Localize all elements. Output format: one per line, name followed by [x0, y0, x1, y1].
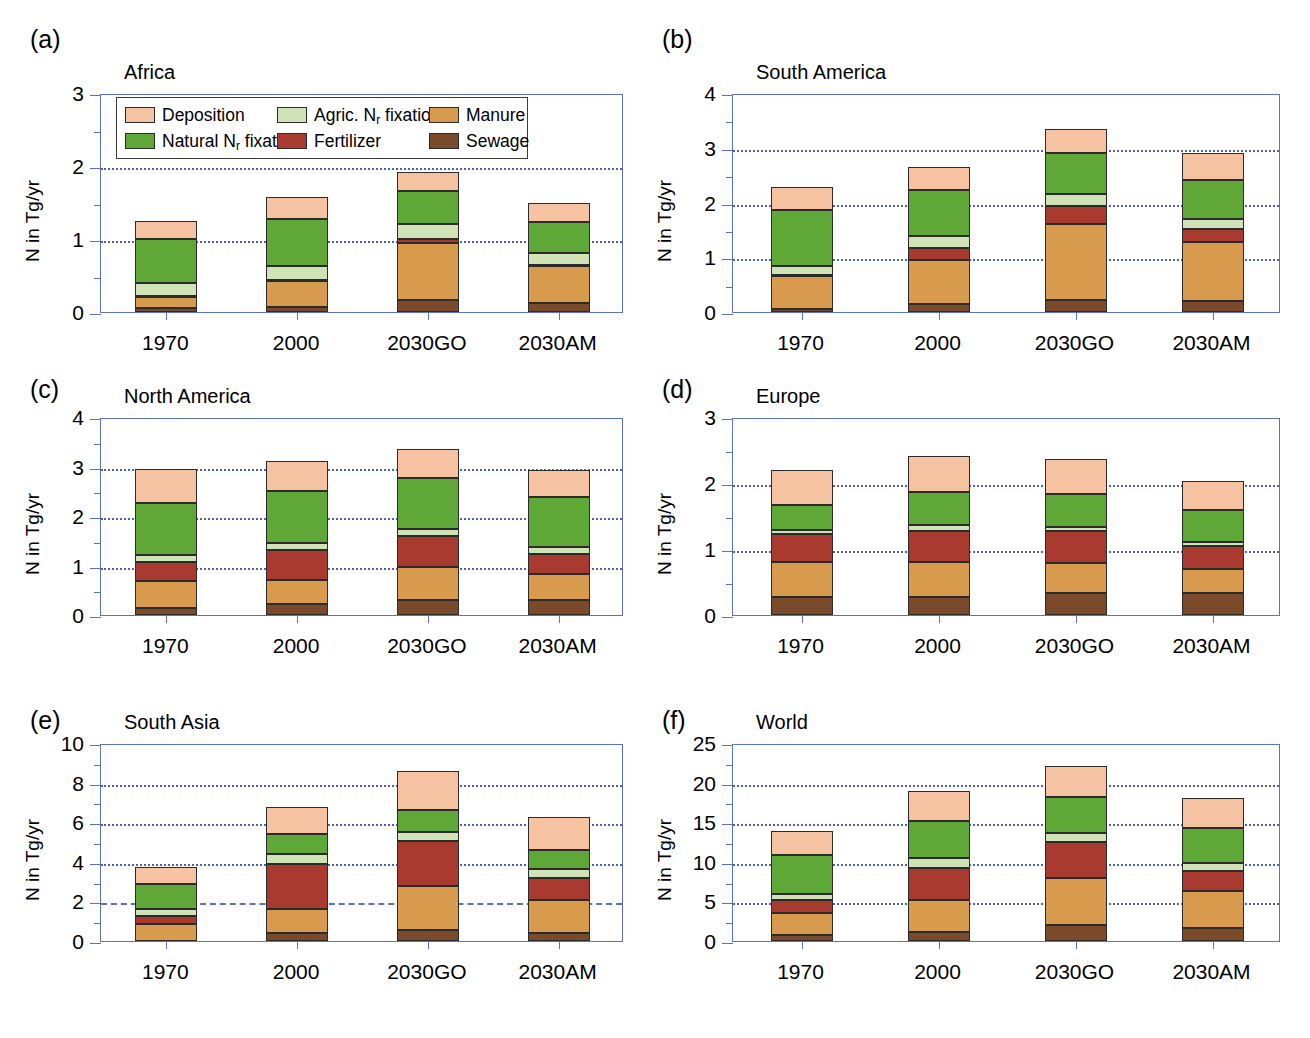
bar-segment-fertilizer[interactable] — [1182, 871, 1244, 891]
bar-segment-agric_fixation[interactable] — [771, 894, 833, 900]
y-tick-label: 0 — [674, 930, 716, 954]
x-tick-label: 2000 — [914, 960, 961, 984]
bar-segment-agric_fixation[interactable] — [1045, 833, 1107, 843]
bar-segment-manure[interactable] — [1182, 891, 1244, 928]
legend-label-agric_fixation: Agric. Nr fixation — [314, 105, 441, 126]
legend-swatch-agric_fixation — [277, 107, 307, 123]
figure-root: (a)AfricaN in Tg/yr0123197020002030GO203… — [0, 0, 1310, 1038]
bar-segment-agric_fixation[interactable] — [1182, 863, 1244, 871]
y-tick-minor — [726, 765, 733, 766]
y-tick-label: 5 — [674, 890, 716, 914]
x-tick — [1213, 941, 1214, 949]
legend-swatch-sewage — [429, 133, 459, 149]
bar-segment-sewage[interactable] — [771, 935, 833, 941]
panel-label-f: (f) — [662, 706, 686, 735]
y-tick-label: 25 — [674, 732, 716, 756]
legend-label-deposition: Deposition — [162, 105, 245, 126]
legend-item-fertilizer: Fertilizer — [277, 128, 429, 154]
y-tick-major — [722, 903, 733, 904]
bar-segment-sewage[interactable] — [1045, 925, 1107, 941]
y-tick-major — [722, 785, 733, 786]
panel-title-f: World — [756, 711, 808, 734]
bar-segment-agric_fixation[interactable] — [908, 858, 970, 868]
y-tick-major — [722, 943, 733, 944]
bar-segment-natural_fixation[interactable] — [1182, 828, 1244, 864]
legend-swatch-deposition — [125, 107, 155, 123]
x-tick — [939, 941, 940, 949]
x-tick-label: 2030AM — [1172, 960, 1250, 984]
legend-swatch-fertilizer — [277, 133, 307, 149]
gridline-20 — [733, 785, 1279, 787]
stacked-bar[interactable] — [771, 831, 833, 941]
x-tick — [1076, 941, 1077, 949]
bar-segment-natural_fixation[interactable] — [908, 821, 970, 858]
y-tick-minor — [726, 884, 733, 885]
y-tick-minor — [726, 923, 733, 924]
y-tick-label: 15 — [674, 811, 716, 835]
bar-segment-fertilizer[interactable] — [771, 900, 833, 913]
bar-segment-sewage[interactable] — [1182, 928, 1244, 941]
bar-segment-deposition[interactable] — [1182, 798, 1244, 827]
stacked-bar[interactable] — [1182, 798, 1244, 941]
legend-item-deposition: Deposition — [125, 102, 277, 128]
legend-item-natural_fixation: Natural Nr fixation — [125, 128, 277, 154]
bar-segment-sewage[interactable] — [908, 932, 970, 942]
legend-label-fertilizer: Fertilizer — [314, 131, 381, 152]
bar-segment-manure[interactable] — [908, 900, 970, 932]
legend-swatch-natural_fixation — [125, 133, 155, 149]
legend-label-sewage: Sewage — [466, 131, 529, 152]
y-tick-major — [722, 745, 733, 746]
plot-area-f — [732, 744, 1280, 942]
y-tick-major — [722, 864, 733, 865]
x-tick-label: 1970 — [777, 960, 824, 984]
bar-segment-natural_fixation[interactable] — [1045, 797, 1107, 833]
stacked-bar[interactable] — [1045, 766, 1107, 941]
legend-item-sewage: Sewage — [429, 128, 521, 154]
legend-label-manure: Manure — [466, 105, 525, 126]
bar-segment-natural_fixation[interactable] — [771, 855, 833, 894]
legend-swatch-manure — [429, 107, 459, 123]
bar-segment-manure[interactable] — [771, 913, 833, 935]
bar-segment-deposition[interactable] — [771, 831, 833, 856]
x-tick-label: 2030GO — [1035, 960, 1114, 984]
bar-segment-deposition[interactable] — [908, 791, 970, 821]
y-tick-major — [722, 824, 733, 825]
stacked-bar[interactable] — [908, 791, 970, 941]
legend-item-agric_fixation: Agric. Nr fixation — [277, 102, 429, 128]
y-tick-label: 20 — [674, 772, 716, 796]
chart-legend: DepositionAgric. Nr fixationManureNatura… — [116, 97, 528, 159]
y-axis-label-f: N in Tg/yr — [654, 819, 676, 901]
bar-segment-manure[interactable] — [1045, 878, 1107, 926]
bar-segment-fertilizer[interactable] — [908, 868, 970, 900]
legend-item-manure: Manure — [429, 102, 521, 128]
y-tick-label: 10 — [674, 851, 716, 875]
bar-segment-deposition[interactable] — [1045, 766, 1107, 797]
y-tick-minor — [726, 804, 733, 805]
x-tick — [802, 941, 803, 949]
y-tick-minor — [726, 844, 733, 845]
bar-segment-fertilizer[interactable] — [1045, 842, 1107, 878]
